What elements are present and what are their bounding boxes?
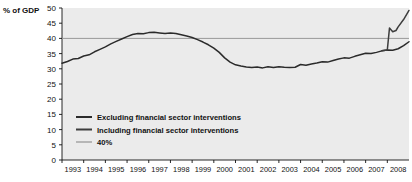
x-tick-label: 2008 bbox=[390, 165, 406, 174]
plot-area-background bbox=[62, 8, 409, 160]
y-tick-label: 10 bbox=[47, 126, 56, 135]
y-tick-label: 25 bbox=[47, 80, 56, 89]
x-tick-label: 1993 bbox=[65, 165, 81, 174]
x-tick-label: 2005 bbox=[325, 165, 341, 174]
y-tick-label: 45 bbox=[47, 19, 56, 28]
x-tick-label: 2006 bbox=[347, 165, 363, 174]
x-tick-label: 2002 bbox=[260, 165, 276, 174]
y-axis-title: % of GDP bbox=[3, 6, 40, 15]
line-chart: 05101520253035404550 1993199419951996199… bbox=[0, 0, 412, 182]
legend-label: Excluding financial sector interventions bbox=[97, 113, 241, 122]
x-tick-label: 1997 bbox=[151, 165, 167, 174]
x-tick-label: 2007 bbox=[368, 165, 384, 174]
x-tick-label: 2004 bbox=[303, 165, 319, 174]
legend-label: Including financial sector interventions bbox=[97, 126, 238, 135]
legend-label: 40% bbox=[97, 138, 112, 147]
x-tick-label: 1999 bbox=[195, 165, 211, 174]
y-tick-label: 40 bbox=[47, 34, 56, 43]
chart-container: 05101520253035404550 1993199419951996199… bbox=[0, 0, 412, 182]
y-tick-label: 30 bbox=[47, 65, 56, 74]
x-tick-label: 1995 bbox=[108, 165, 124, 174]
x-tick-label: 2003 bbox=[281, 165, 297, 174]
x-tick-label: 2001 bbox=[238, 165, 254, 174]
y-tick-label: 5 bbox=[52, 141, 57, 150]
x-tick-label: 1998 bbox=[173, 165, 189, 174]
x-tick-label: 2000 bbox=[216, 165, 232, 174]
y-tick-label: 0 bbox=[52, 156, 57, 165]
x-tick-label: 1994 bbox=[86, 165, 102, 174]
x-tick-label: 1996 bbox=[130, 165, 146, 174]
y-tick-label: 15 bbox=[47, 110, 56, 119]
y-tick-label: 20 bbox=[47, 95, 56, 104]
y-tick-label: 50 bbox=[47, 4, 56, 13]
y-tick-label: 35 bbox=[47, 50, 56, 59]
